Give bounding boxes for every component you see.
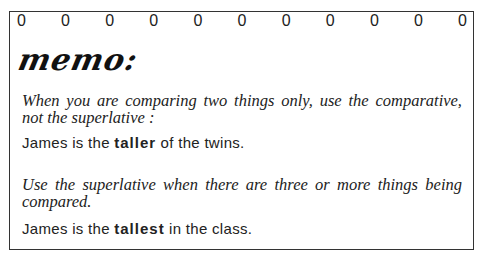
header-marks: 0 0 0 0 0 0 0 0 0 0 0 bbox=[17, 12, 467, 30]
example-text: James is the bbox=[22, 134, 114, 151]
mark: 0 bbox=[282, 12, 291, 30]
example-superlative: James is the tallest in the class. bbox=[22, 220, 252, 237]
example-text: James is the bbox=[22, 220, 114, 237]
mark: 0 bbox=[238, 12, 247, 30]
mark: 0 bbox=[105, 12, 114, 30]
example-text: of the twins. bbox=[156, 134, 244, 151]
mark: 0 bbox=[17, 12, 26, 30]
mark: 0 bbox=[370, 12, 379, 30]
memo-title: memo: bbox=[15, 42, 141, 77]
mark: 0 bbox=[149, 12, 158, 30]
mark: 0 bbox=[458, 12, 467, 30]
rule-superlative: Use the superlative when there are three… bbox=[22, 176, 462, 210]
mark: 0 bbox=[326, 12, 335, 30]
mark: 0 bbox=[61, 12, 70, 30]
rule-comparative: When you are comparing two things only, … bbox=[22, 92, 462, 126]
example-bold-word: tallest bbox=[114, 220, 164, 237]
mark: 0 bbox=[193, 12, 202, 30]
example-text: in the class. bbox=[165, 220, 253, 237]
mark: 0 bbox=[414, 12, 423, 30]
example-bold-word: taller bbox=[114, 134, 156, 151]
example-comparative: James is the taller of the twins. bbox=[22, 134, 245, 151]
